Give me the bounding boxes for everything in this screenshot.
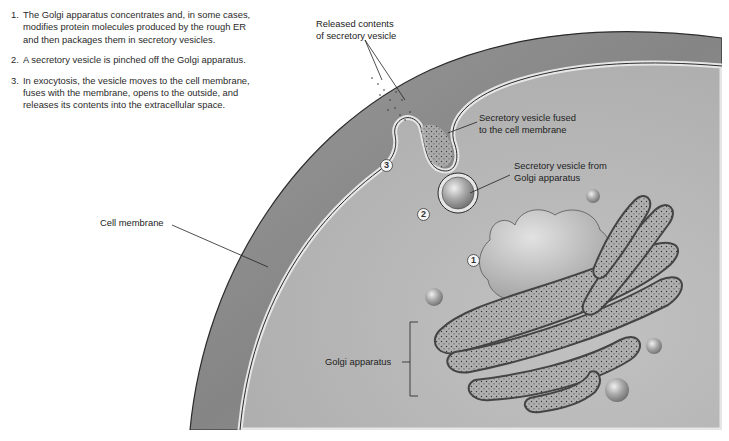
steps-list: 1. The Golgi apparatus concentrates and,… bbox=[11, 9, 251, 120]
step-number: 2. bbox=[11, 54, 19, 66]
label-line: Secretory vesicle from bbox=[514, 160, 607, 172]
label-vesicle-from-golgi: Secretory vesicle from Golgi apparatus bbox=[514, 160, 607, 184]
step-number: 1. bbox=[11, 9, 19, 21]
label-line: Golgi apparatus bbox=[514, 172, 607, 184]
step-2: 2. A secretory vesicle is pinched off th… bbox=[11, 54, 251, 66]
step-badge-1: 1 bbox=[467, 254, 480, 267]
step-badge-2: 2 bbox=[417, 208, 430, 221]
step-badge-3: 3 bbox=[380, 159, 393, 172]
step-text: A secretory vesicle is pinched off the G… bbox=[23, 54, 246, 65]
label-vesicle-fused: Secretory vesicle fused to the cell memb… bbox=[479, 112, 576, 136]
step-text: In exocytosis, the vesicle moves to the … bbox=[23, 75, 250, 111]
step-3: 3. In exocytosis, the vesicle moves to t… bbox=[11, 75, 251, 112]
label-line: Released contents bbox=[316, 18, 396, 30]
label-released-contents: Released contents of secretory vesicle bbox=[316, 18, 396, 42]
step-1: 1. The Golgi apparatus concentrates and,… bbox=[11, 9, 251, 46]
label-cell-membrane: Cell membrane bbox=[100, 217, 164, 229]
label-line: of secretory vesicle bbox=[316, 30, 396, 42]
step-text: The Golgi apparatus concentrates and, in… bbox=[23, 9, 250, 45]
step-number: 3. bbox=[11, 75, 19, 87]
label-golgi-apparatus: Golgi apparatus bbox=[325, 356, 391, 368]
label-line: Secretory vesicle fused bbox=[479, 112, 576, 124]
label-line: to the cell membrane bbox=[479, 124, 576, 136]
